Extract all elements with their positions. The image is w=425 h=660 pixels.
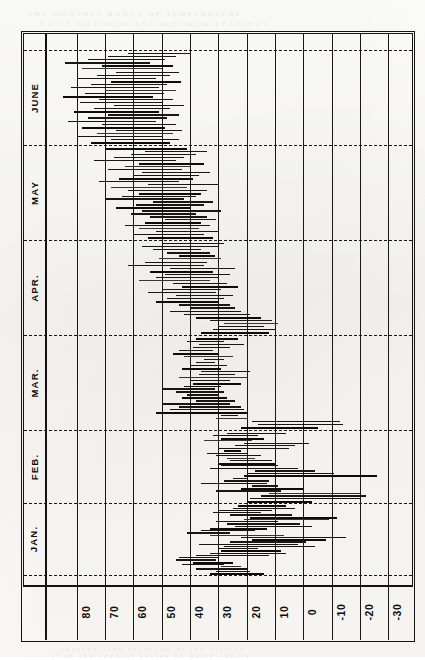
range-bar bbox=[196, 362, 216, 363]
range-bar bbox=[139, 280, 210, 281]
range-bar bbox=[210, 320, 272, 321]
tick-label-neg10: -10 bbox=[334, 591, 348, 633]
month-boundary-3 bbox=[24, 335, 412, 336]
month-label-apr: APR. bbox=[27, 240, 41, 335]
range-bar bbox=[108, 56, 176, 57]
gridline-0 bbox=[303, 33, 304, 640]
range-bar bbox=[196, 317, 261, 319]
range-bar bbox=[241, 427, 318, 429]
range-bar bbox=[91, 142, 170, 144]
range-bar bbox=[213, 435, 258, 436]
month-boundary-6 bbox=[24, 575, 412, 576]
range-bar bbox=[213, 329, 275, 330]
range-bar bbox=[128, 265, 205, 266]
range-bar bbox=[179, 377, 247, 378]
range-bar bbox=[133, 175, 198, 176]
range-bar bbox=[182, 564, 225, 565]
range-bar bbox=[102, 124, 176, 125]
range-bar bbox=[221, 550, 281, 552]
range-bar bbox=[196, 555, 270, 556]
tick-label-80: 80 bbox=[79, 591, 93, 633]
month-label-may: MAY bbox=[27, 145, 41, 240]
range-bar bbox=[99, 181, 178, 182]
range-bar bbox=[250, 498, 361, 499]
range-bar bbox=[165, 219, 216, 220]
range-bar bbox=[201, 483, 266, 484]
gridline--10 bbox=[332, 33, 333, 640]
range-bar bbox=[145, 222, 202, 224]
range-bar bbox=[218, 463, 275, 465]
tick-label-0: 0 bbox=[305, 591, 319, 633]
range-bar bbox=[218, 448, 289, 449]
range-bar bbox=[162, 403, 230, 404]
range-bar bbox=[176, 559, 216, 560]
range-bar bbox=[148, 184, 219, 185]
range-bar bbox=[176, 295, 233, 296]
gridline-10 bbox=[275, 33, 276, 640]
range-bar bbox=[108, 169, 182, 170]
range-bar bbox=[167, 252, 210, 253]
range-bar bbox=[210, 468, 298, 469]
range-bar bbox=[252, 539, 326, 541]
range-bar bbox=[204, 359, 224, 360]
range-bar bbox=[179, 406, 241, 407]
range-bar bbox=[85, 93, 164, 94]
range-bar bbox=[224, 546, 315, 547]
range-bar bbox=[250, 517, 338, 519]
range-bar bbox=[230, 460, 273, 461]
range-bar bbox=[227, 433, 287, 434]
range-bar bbox=[88, 59, 165, 60]
range-bar bbox=[221, 566, 241, 567]
range-bar bbox=[184, 386, 221, 387]
range-bar bbox=[210, 528, 267, 530]
month-boundary-0 bbox=[24, 50, 412, 51]
range-bar bbox=[139, 163, 204, 165]
range-bar bbox=[201, 530, 255, 531]
gridline-40 bbox=[190, 33, 191, 640]
range-bar bbox=[216, 571, 250, 572]
range-bar bbox=[111, 187, 188, 188]
range-bar bbox=[125, 166, 190, 167]
range-bar bbox=[170, 409, 244, 410]
range-bar bbox=[196, 400, 236, 401]
range-bar bbox=[80, 102, 162, 103]
range-bar bbox=[71, 87, 159, 88]
range-bar bbox=[170, 311, 241, 312]
tick-label-60: 60 bbox=[135, 591, 149, 633]
range-bar bbox=[65, 62, 150, 63]
range-bar bbox=[216, 490, 281, 491]
range-bar bbox=[145, 262, 207, 263]
month-label-jan: JAN. bbox=[27, 503, 41, 575]
range-bar bbox=[170, 268, 235, 269]
range-bar bbox=[142, 246, 219, 247]
range-bar bbox=[97, 75, 171, 76]
range-bar bbox=[244, 519, 329, 520]
range-bar bbox=[187, 341, 224, 342]
range-bar bbox=[97, 133, 174, 134]
month-boundary-1 bbox=[24, 145, 412, 146]
range-bar bbox=[116, 72, 178, 73]
range-bar bbox=[105, 148, 187, 150]
range-bar bbox=[199, 374, 236, 375]
range-bar bbox=[258, 424, 343, 425]
month-boundary-2 bbox=[24, 240, 412, 241]
range-bar bbox=[227, 458, 255, 459]
range-bar bbox=[68, 121, 156, 122]
range-bar bbox=[156, 231, 218, 232]
range-bar bbox=[105, 198, 184, 199]
range-bar bbox=[241, 537, 346, 538]
range-bar bbox=[201, 371, 249, 372]
range-bar bbox=[193, 562, 233, 564]
range-bar bbox=[150, 216, 207, 217]
range-bar bbox=[269, 493, 360, 494]
range-bar bbox=[114, 157, 185, 158]
range-bar bbox=[176, 391, 224, 392]
tick-label-70: 70 bbox=[107, 591, 121, 633]
range-bar bbox=[125, 225, 210, 226]
range-bar bbox=[182, 397, 227, 399]
range-bar bbox=[190, 307, 235, 308]
range-bar bbox=[224, 323, 278, 324]
gridline-80 bbox=[77, 33, 78, 640]
gridline--20 bbox=[360, 33, 361, 640]
range-bar bbox=[99, 99, 173, 100]
